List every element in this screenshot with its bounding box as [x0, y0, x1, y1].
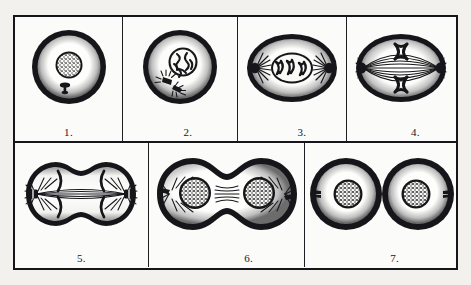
daughter-cell-left-icon [310, 158, 382, 230]
panel-5-label: 5. [15, 252, 148, 264]
panel-5-anaphase: 5. [15, 143, 149, 267]
panel-6-label: 6. [171, 252, 306, 264]
panel-1-interphase: 1. [15, 17, 123, 141]
panel-2-label: 2. [131, 126, 238, 138]
figure-row-top: 1. [15, 17, 456, 143]
panel-3-prometaphase: 3. [238, 17, 347, 141]
panel-7-artwork [305, 143, 456, 245]
panel-1-artwork [15, 17, 122, 119]
panel-7-cytokinesis-complete: 7. [305, 143, 456, 267]
panel-4-label: 4. [361, 126, 456, 138]
daughter-cell-right-icon [382, 158, 454, 230]
panel-4-metaphase: 4. [347, 17, 456, 141]
nucleus-icon [55, 52, 82, 79]
panel-4-artwork [347, 17, 456, 119]
mitosis-figure-frame: 1. [13, 15, 458, 270]
panel-2-prophase: 2. [123, 17, 238, 141]
panel-3-label: 3. [248, 126, 347, 138]
panel-7-label: 7. [319, 252, 456, 264]
panel-3-artwork [238, 17, 346, 119]
panel-6-artwork [149, 143, 305, 245]
panel-1-label: 1. [15, 126, 122, 138]
panel-5-artwork [15, 143, 148, 245]
figure-row-bottom: 5. [15, 143, 456, 267]
panel-2-artwork [123, 17, 237, 119]
panel-6-telophase: 6. [149, 143, 306, 267]
